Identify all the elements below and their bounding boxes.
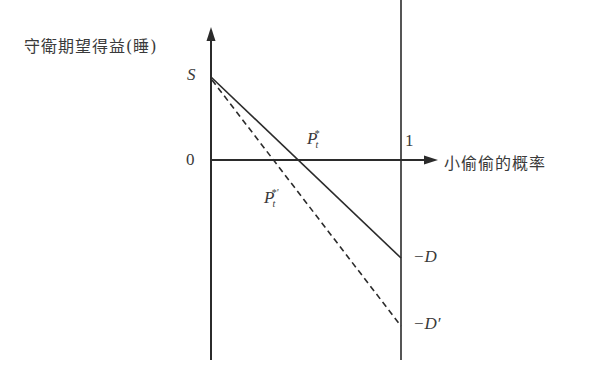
payoff-diagram <box>0 0 605 382</box>
label-s: S <box>187 65 196 85</box>
label-minus-d-prime: −D′ <box>413 314 440 334</box>
p-star-prime-sup: *' <box>271 187 278 198</box>
label-one: 1 <box>405 131 414 151</box>
x-axis-arrow-icon <box>424 156 438 165</box>
dashed-payoff-line <box>212 80 401 326</box>
y-axis-label: 守衛期望得益(睡) <box>24 33 157 57</box>
label-minus-d: −D <box>413 247 437 267</box>
solid-payoff-line <box>211 77 401 258</box>
x-axis-label: 小偷偷的概率 <box>444 150 546 174</box>
p-star-prime-sub: t <box>272 198 275 209</box>
y-axis-arrow-icon <box>207 27 216 41</box>
label-zero: 0 <box>186 150 195 170</box>
label-p-star: Pt* <box>307 128 319 150</box>
label-p-star-prime: Pt*' <box>264 187 278 209</box>
p-star-sub: t <box>315 139 318 150</box>
p-star-sup: * <box>314 128 319 139</box>
